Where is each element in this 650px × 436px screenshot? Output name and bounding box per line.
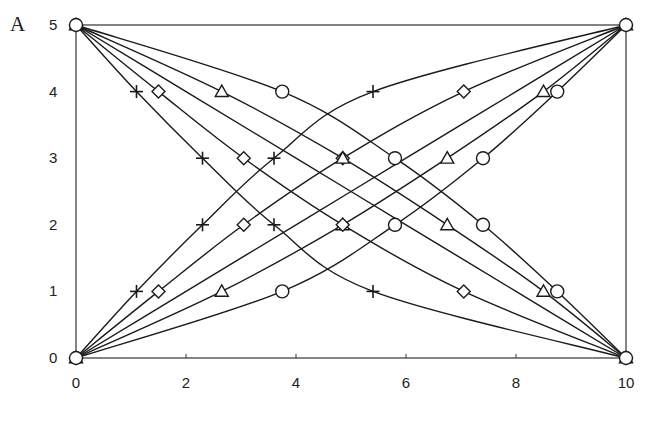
y-tick-label: 1 [49,282,57,299]
panel-label: A [10,12,26,36]
line-chart: A 012345 0246810 [0,0,650,436]
triangle-marker-icon [441,152,454,163]
circle-marker-icon [276,285,289,298]
triangle-marker-icon [215,285,228,296]
x-tick-label: 0 [72,374,80,391]
circle-marker-icon [477,218,490,231]
x-tick-label: 8 [512,374,520,391]
diamond-marker-icon [237,152,250,165]
circle-marker-icon [477,152,490,165]
y-tick-label: 5 [49,16,57,33]
circle-marker-icon [551,85,564,98]
diamond-marker-icon [457,85,470,98]
circle-marker-icon [389,152,402,165]
x-tick-label: 6 [402,374,410,391]
circle-marker-icon [70,352,83,365]
triangle-marker-icon [537,85,550,96]
triangle-marker-icon [215,85,228,96]
circle-marker-icon [620,352,633,365]
circle-marker-icon [70,19,83,32]
y-axis-tick-labels: 012345 [49,16,57,366]
x-tick-label: 2 [182,374,190,391]
circle-marker-icon [551,285,564,298]
circle-marker-icon [620,19,633,32]
diamond-marker-icon [237,218,250,231]
series-curves [76,25,626,358]
circle-marker-icon [389,218,402,231]
triangle-marker-icon [441,218,454,229]
plus-marker-icon [367,85,380,98]
diamond-marker-icon [152,85,165,98]
plus-marker-icon [367,285,380,298]
y-tick-label: 4 [49,83,57,100]
x-axis-tick-labels: 0246810 [72,374,635,391]
y-tick-label: 0 [49,349,57,366]
x-tick-label: 10 [618,374,635,391]
triangle-marker-icon [537,285,550,296]
y-tick-label: 3 [49,149,57,166]
y-tick-label: 2 [49,216,57,233]
x-tick-label: 4 [292,374,300,391]
diamond-marker-icon [457,285,470,298]
circle-marker-icon [276,85,289,98]
diamond-marker-icon [152,285,165,298]
